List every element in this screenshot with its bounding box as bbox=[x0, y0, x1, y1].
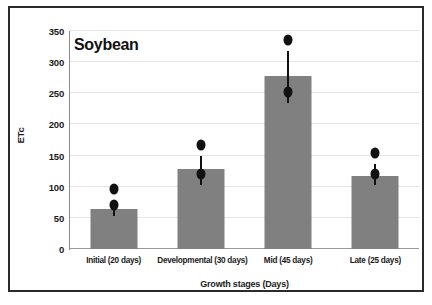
error-cap-lower bbox=[284, 86, 293, 97]
error-cap-lower bbox=[109, 200, 118, 211]
bar-group[interactable] bbox=[70, 31, 157, 249]
y-tick-label-250: 250 bbox=[30, 88, 64, 99]
error-cap-upper bbox=[109, 183, 118, 194]
bar[interactable] bbox=[352, 176, 399, 249]
error-cap-lower bbox=[196, 169, 205, 180]
error-cap-upper bbox=[371, 147, 380, 158]
x-tick-label: Initial (20 days) bbox=[70, 256, 157, 265]
y-tick-label-300: 300 bbox=[30, 57, 64, 68]
x-tick-label: Developmental (30 days) bbox=[157, 256, 244, 265]
y-tick-label-50: 50 bbox=[30, 212, 64, 223]
bar-group[interactable] bbox=[157, 31, 244, 249]
y-axis-title: ETc bbox=[15, 114, 26, 158]
x-tick-label: Mid (45 days) bbox=[245, 256, 332, 265]
error-cap-upper bbox=[196, 139, 205, 150]
y-tick-label-100: 100 bbox=[30, 181, 64, 192]
figure-frame: Soybean ETc 050100150200250300350 Growth… bbox=[8, 6, 424, 292]
y-tick-label-0: 0 bbox=[30, 244, 64, 255]
bar-group[interactable] bbox=[245, 31, 332, 249]
y-tick-label-200: 200 bbox=[30, 119, 64, 130]
x-tick-label: Late (25 days) bbox=[332, 256, 419, 265]
y-tick-label-150: 150 bbox=[30, 150, 64, 161]
x-axis-title: Growth stages (Days) bbox=[70, 279, 419, 289]
error-cap-lower bbox=[371, 168, 380, 179]
error-cap-upper bbox=[284, 34, 293, 45]
y-tick-label-350: 350 bbox=[30, 26, 64, 37]
bar-group[interactable] bbox=[332, 31, 419, 249]
plot-area bbox=[70, 31, 419, 249]
y-axis-tick-labels: 050100150200250300350 bbox=[26, 8, 64, 305]
